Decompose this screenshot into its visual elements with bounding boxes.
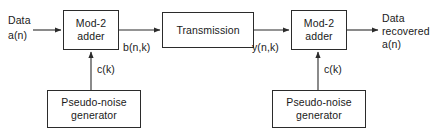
block-label-line1: Mod-2 — [304, 17, 334, 30]
label-data-output-line3: a(n) — [382, 38, 401, 51]
label-signal-b: b(n,k) — [123, 41, 150, 54]
block-label-line1: Pseudo-noise — [286, 96, 351, 109]
label-code-right: c(k) — [324, 63, 342, 76]
label-signal-y: y(n,k) — [252, 41, 279, 54]
block-diagram: Mod-2 adder Transmission Mod-2 adder Pse… — [0, 0, 440, 135]
label-data-output-line1: Data — [382, 12, 405, 25]
label-data-input-line2: a(n) — [8, 29, 27, 42]
block-label-line1: Transmission — [176, 24, 239, 37]
label-data-input-line1: Data — [8, 14, 31, 27]
block-mod2-adder-transmitter: Mod-2 adder — [63, 10, 119, 50]
block-label-line1: Pseudo-noise — [61, 96, 126, 109]
label-code-left: c(k) — [97, 63, 115, 76]
block-label-line2: generator — [296, 109, 342, 122]
block-pseudo-noise-generator-transmitter: Pseudo-noise generator — [47, 90, 141, 128]
block-label-line2: adder — [305, 30, 332, 43]
label-data-output-line2: recovered — [382, 25, 430, 38]
block-mod2-adder-receiver: Mod-2 adder — [291, 10, 347, 50]
block-label-line1: Mod-2 — [76, 17, 106, 30]
block-label-line2: generator — [71, 109, 117, 122]
block-pseudo-noise-generator-receiver: Pseudo-noise generator — [272, 90, 366, 128]
block-label-line2: adder — [77, 30, 104, 43]
block-transmission: Transmission — [162, 12, 254, 48]
